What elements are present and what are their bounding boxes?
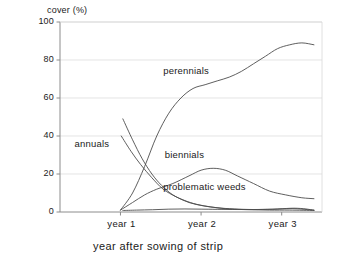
y-tick-label: 20 (18, 168, 54, 178)
y-tick-label: 0 (18, 206, 54, 216)
chart-figure: cover (%) year after sowing of strip 020… (0, 0, 342, 260)
series-annotation: annuals (75, 138, 110, 149)
x-tick-label: year 1 (99, 218, 143, 229)
x-tick-label: year 3 (261, 218, 305, 229)
x-tick-label: year 2 (180, 218, 224, 229)
series-annotation: problematic weeds (163, 181, 246, 192)
series-annotation: perennials (163, 65, 209, 76)
y-tick-label: 60 (18, 92, 54, 102)
y-tick-label: 40 (18, 130, 54, 140)
y-axis-title: cover (%) (47, 5, 87, 15)
y-tick-label: 100 (18, 16, 54, 26)
y-tick-label: 80 (18, 54, 54, 64)
series-line-second-declining-curve (121, 136, 314, 210)
series-line-annuals (123, 119, 314, 211)
x-axis-title: year after sowing of strip (93, 240, 223, 252)
series-annotation: biennials (165, 149, 204, 160)
